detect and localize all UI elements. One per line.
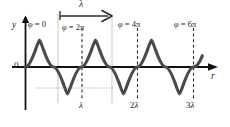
phase-value-4pi: 4π — [132, 19, 141, 29]
x-axis-label: r — [211, 72, 215, 82]
position-label-3lambda: 3λ — [186, 101, 194, 110]
position-label-2lambda: 2λ — [130, 101, 138, 110]
wavelength-span-label: λ — [79, 0, 83, 10]
phase-label-4pi: φ = 4π — [118, 20, 140, 29]
y-axis-label: y — [12, 21, 16, 31]
wave-diagram-figure: y r 0 λ φ = 0 φ = 2π φ = 4π φ = 6π λ 2λ … — [0, 0, 230, 127]
position-label-lambda: λ — [79, 101, 83, 110]
phase-label-0: φ = 0 — [28, 20, 46, 29]
x-axis — [12, 63, 218, 70]
origin-label: 0 — [14, 61, 19, 70]
phase-label-2pi: φ = 2π — [62, 23, 84, 32]
position-sym-3lambda: λ — [191, 100, 195, 110]
position-sym-lambda: λ — [79, 100, 83, 110]
phase-eq-2pi: = — [67, 22, 76, 32]
phase-eq-4pi: = — [123, 19, 132, 29]
y-axis — [22, 16, 29, 111]
phase-eq-6pi: = — [179, 19, 188, 29]
phase-value-2pi: 2π — [76, 22, 85, 32]
phase-label-6pi: φ = 6π — [174, 20, 196, 29]
position-sym-2lambda: λ — [135, 100, 139, 110]
wavelength-span-arrow — [60, 11, 112, 22]
phase-value-0: 0 — [42, 19, 46, 29]
phase-eq-0: = — [33, 19, 42, 29]
phase-value-6pi: 6π — [188, 19, 197, 29]
